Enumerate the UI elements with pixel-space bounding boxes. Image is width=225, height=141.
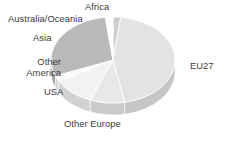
pie-label-asia: Asia (33, 33, 51, 44)
pie-label-other-america: Other America (9, 57, 61, 78)
pie-label-usa: USA (44, 87, 63, 98)
pie-label-africa: Africa (85, 2, 109, 13)
pie-label-other-europe: Other Europe (64, 119, 121, 130)
pie-label-eu27: EU27 (190, 61, 214, 72)
pie-chart-figure: Africa Australia/Oceania Asia Other Amer… (0, 0, 225, 141)
pie-label-australia-oceania: Australia/Oceania (8, 14, 83, 25)
pie-top-faces (51, 17, 175, 103)
